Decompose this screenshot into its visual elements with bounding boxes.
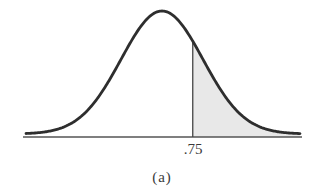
normal-curve (26, 11, 300, 134)
shaded-tail-region (193, 41, 300, 137)
figure-caption: (a) (152, 170, 172, 185)
normal-curve-figure: .75 (a) (0, 0, 321, 194)
cutoff-tick-label: .75 (184, 142, 203, 157)
normal-curve-plot (0, 0, 321, 194)
